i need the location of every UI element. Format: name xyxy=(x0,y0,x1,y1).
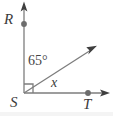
point-r-dot xyxy=(21,21,27,27)
ray-sr-vertical xyxy=(21,2,28,94)
point-label-r: R xyxy=(4,12,13,27)
geometry-figure: R S T 65° x xyxy=(0,0,113,116)
point-label-s: S xyxy=(10,95,18,110)
ray-sx-arrowhead-icon xyxy=(86,46,97,55)
bottom-edge-shade xyxy=(0,112,113,116)
point-label-t: T xyxy=(83,97,91,112)
angle-variable-label-x: x xyxy=(51,76,57,90)
ray-st-horizontal xyxy=(24,90,110,97)
angle-measure-label-65: 65° xyxy=(28,54,48,68)
